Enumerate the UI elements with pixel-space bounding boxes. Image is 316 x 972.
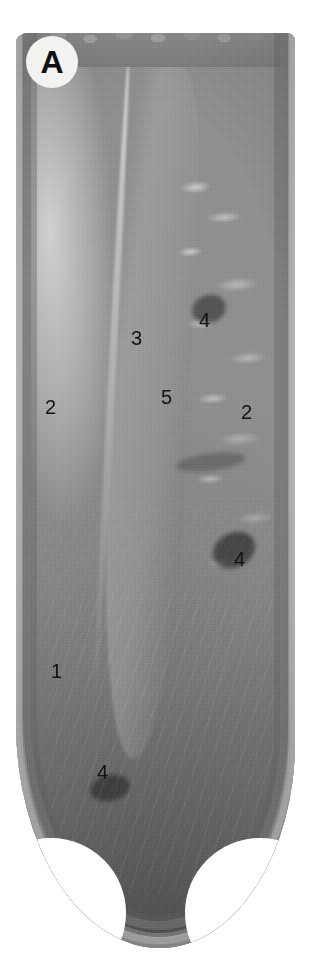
label-4-upper-crypt: 4 [199, 310, 210, 330]
figure-panel: A 34252414 [0, 0, 316, 972]
label-5-midzone: 5 [161, 387, 172, 407]
photo-vignette [16, 33, 295, 948]
label-4-lower-crypt: 4 [97, 762, 108, 782]
label-2-right-wall: 2 [241, 402, 252, 422]
label-3-septum: 3 [131, 328, 142, 348]
specimen-photograph [16, 33, 295, 948]
panel-label-text: A [40, 46, 63, 78]
panel-label-badge: A [26, 36, 78, 88]
label-2-left-wall: 2 [45, 397, 56, 417]
label-4-middle-crypt: 4 [234, 549, 245, 569]
label-1-chamber: 1 [51, 661, 62, 681]
